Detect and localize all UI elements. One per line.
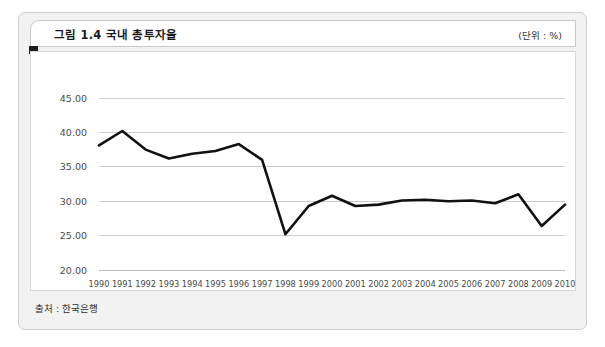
x-axis-tick-label: 2002	[368, 279, 389, 289]
figure-title-bar: 그림 1.4 국내 총투자율 (단위 : %)	[30, 20, 576, 47]
y-axis-tick-label: 25.00	[60, 230, 87, 241]
gridlines	[99, 98, 565, 270]
x-axis-tick-label: 1995	[205, 279, 226, 289]
x-axis-tick-label: 2003	[391, 279, 412, 289]
x-axis-tick-label: 2006	[461, 279, 482, 289]
x-axis-tick-label: 2001	[345, 279, 366, 289]
data-series-line	[99, 131, 565, 234]
line-chart: 45.0040.0035.0030.0025.0020.00 199019911…	[31, 52, 576, 291]
x-axis-tick-label: 1990	[89, 279, 110, 289]
x-axis-tick-labels: 1990199119921993199419951996199719981999…	[89, 279, 576, 289]
x-axis-tick-label: 1997	[252, 279, 273, 289]
x-axis-tick-label: 2008	[508, 279, 529, 289]
y-axis-tick-label: 30.00	[60, 196, 87, 207]
x-axis-tick-label: 1999	[298, 279, 319, 289]
y-axis-tick-label: 35.00	[60, 161, 87, 172]
x-axis-tick-label: 1996	[228, 279, 249, 289]
y-axis-tick-label: 45.00	[60, 93, 87, 104]
y-axis-tick-label: 20.00	[60, 265, 87, 276]
figure-frame: 그림 1.4 국내 총투자율 (단위 : %) 45.0040.0035.003…	[18, 12, 587, 330]
x-axis-tick-label: 1993	[158, 279, 179, 289]
y-axis-tick-labels: 45.0040.0035.0030.0025.0020.00	[60, 93, 87, 276]
page-title: 그림 1.4 국내 총투자율	[54, 26, 177, 42]
y-axis-tick-label: 40.00	[60, 127, 87, 138]
x-axis-tick-label: 2005	[438, 279, 459, 289]
x-axis-tick-label: 2007	[485, 279, 506, 289]
chart-plot-area: 45.0040.0035.0030.0025.0020.00 199019911…	[30, 51, 576, 291]
x-axis-tick-label: 2009	[531, 279, 552, 289]
x-axis-tick-label: 1998	[275, 279, 296, 289]
x-axis-tick-label: 1991	[112, 279, 133, 289]
x-axis-tick-label: 2000	[322, 279, 343, 289]
source-note: 출처 : 한국은행	[35, 301, 98, 315]
x-axis-tick-label: 2010	[555, 279, 576, 289]
unit-label: (단위 : %)	[518, 28, 562, 42]
x-axis-tick-label: 1994	[182, 279, 203, 289]
x-axis-tick-label: 2004	[415, 279, 436, 289]
x-axis-tick-label: 1992	[135, 279, 156, 289]
